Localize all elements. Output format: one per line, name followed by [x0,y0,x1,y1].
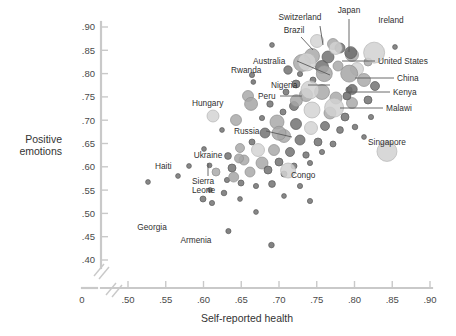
y-tick-label: .90 [82,21,95,32]
data-point [297,183,302,188]
data-point [269,145,280,156]
data-point [307,198,312,203]
data-point [254,210,259,215]
data-point-labeled [229,172,239,182]
data-point [295,135,305,145]
y-tick-label: .70 [82,115,95,126]
data-point [212,168,220,176]
data-point [358,74,371,87]
data-point [305,122,318,135]
data-point [297,71,302,76]
data-point [291,119,302,130]
data-point [238,197,243,202]
data-point-labeled [329,41,342,54]
point-label: Ukraine [194,150,223,160]
point-label: Hungary [192,98,224,108]
data-point [270,43,275,48]
y-tick-label: .65 [82,138,95,149]
data-point [269,181,276,188]
data-point [275,158,283,166]
data-point-labeled [316,66,332,82]
data-point [341,113,349,121]
point-label: Singapore [368,137,406,147]
data-point [176,174,181,179]
point-label: Kenya [393,87,417,97]
point-label: United States [378,56,428,66]
data-point [337,127,344,134]
data-point [319,149,324,154]
y-tick-label: .60 [82,161,95,172]
x-tick-label: .60 [197,294,210,305]
data-point [231,115,242,126]
data-point [221,190,227,196]
bubble-series [146,35,398,248]
data-point-labeled [341,65,358,82]
point-label: Ireland [378,15,404,25]
point-label: Switzerland [279,12,322,22]
data-point-labeled [226,229,231,234]
data-point [146,180,151,185]
x-tick-label: .65 [235,294,248,305]
data-point [321,122,330,131]
data-point-labeled [234,154,243,163]
y-tick-label: .40 [82,254,95,265]
x-tick-label: .85 [386,294,399,305]
data-point-labeled [301,81,319,99]
x-tick-label: .55 [159,294,172,305]
data-point [303,152,309,158]
y-tick-label: .50 [82,208,95,219]
data-point [187,164,192,169]
data-point [352,124,358,130]
x-axis-title: Self-reported health [201,312,293,324]
data-point [364,96,372,104]
point-label: Japan [338,5,361,15]
data-point [236,144,245,153]
data-point [280,109,286,115]
point-label: Russia [234,126,260,136]
x-tick-group: 0.50.55.60.65.70.75.80.85.90 [79,281,436,305]
data-point [282,194,287,199]
y-axis-title-line1: Positive [25,133,62,145]
data-point-labeled [345,47,357,59]
y-tick-label: .55 [82,185,95,196]
data-point [249,139,255,145]
point-label: Rwanda [231,65,262,75]
data-point [253,183,258,188]
scatter-plot: .90.85.80.75.70.65.60.55.50.45.40 0.50.5… [0,0,456,336]
point-label: Malawi [386,103,412,113]
data-point [225,153,232,160]
data-point [314,138,322,146]
data-point-labeled [343,92,351,100]
point-label: Haiti [155,161,172,171]
point-label: Georgia [137,222,167,232]
data-point-labeled [245,97,258,110]
data-point [284,66,292,74]
data-point [368,114,373,119]
y-tick-label: .80 [82,68,95,79]
x-tick-label-zero: 0 [79,294,84,305]
data-point [207,110,219,122]
data-point [209,200,214,205]
data-point [330,141,336,147]
y-tick-label: .85 [82,45,95,56]
x-tick-label: .80 [348,294,361,305]
x-tick-label: .75 [310,294,323,305]
data-point [238,180,244,186]
data-point [260,128,270,138]
data-point [371,82,380,91]
data-point [259,115,264,120]
data-point [220,128,225,133]
data-point [304,102,320,118]
y-tick-label: .75 [82,91,95,102]
data-point [264,166,272,174]
data-point-labeled [251,80,256,85]
point-label: Armenia [181,235,212,245]
data-point [362,135,367,140]
data-point [228,164,236,172]
data-point [200,196,206,202]
point-label: China [397,73,419,83]
x-tick-label: .50 [121,294,134,305]
point-label: Leone [192,185,215,195]
point-label: Peru [258,91,276,101]
data-point [393,45,398,50]
